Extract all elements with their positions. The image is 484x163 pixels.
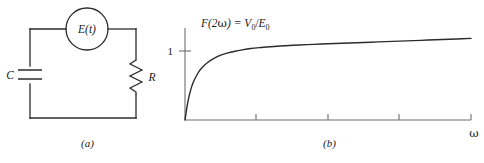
resistor-label: R (147, 71, 155, 83)
caption-panel-b: (b) (175, 137, 484, 149)
panel-circuit-diagram: E(t) C R (a) (0, 0, 175, 163)
plot-annotation: F(2ω) = V0/E0 (200, 16, 270, 32)
y-tick-label-1: 1 (168, 45, 174, 57)
response-curve (185, 38, 471, 120)
annotation-prefix: F(2 (200, 17, 218, 30)
annotation-omega: ω (218, 16, 227, 30)
annotation-e: E (258, 17, 266, 29)
resistor-zigzag (130, 60, 142, 95)
annotation-middle: ) = (226, 17, 244, 30)
voltage-source-label: E(t) (77, 23, 96, 36)
figure-root: E(t) C R (a) F(2ω) = V0/E0 1 (0, 0, 484, 163)
annotation-e-subscript: 0 (266, 23, 270, 32)
caption-panel-a: (a) (0, 137, 175, 149)
capacitor-label: C (6, 69, 14, 81)
panel-response-plot: F(2ω) = V0/E0 1 ω (b) (175, 0, 484, 163)
